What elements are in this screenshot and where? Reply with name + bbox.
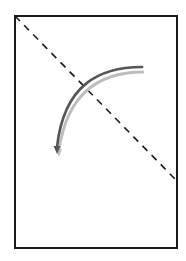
curved-arrow xyxy=(54,67,143,154)
diagram-canvas xyxy=(0,0,186,261)
fold-line xyxy=(15,16,177,181)
curved-arrow-shadow xyxy=(55,72,143,157)
page-frame xyxy=(15,16,177,248)
